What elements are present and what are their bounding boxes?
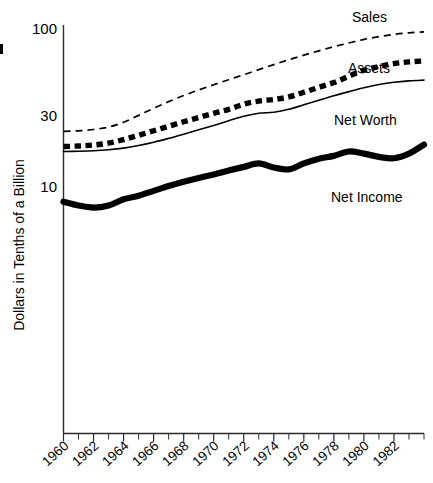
x-tick-label-1962: 1962 — [69, 438, 101, 469]
x-axis-tick-label-group: 1960196219641966196819701972197419761978… — [39, 438, 402, 470]
y-tick-label-30: 30 — [40, 107, 57, 124]
x-tick-label-1982: 1982 — [370, 438, 402, 469]
x-tick-label-1974: 1974 — [249, 438, 282, 470]
x-tick-label-1964: 1964 — [99, 438, 132, 470]
edge-artifact-mark — [0, 44, 3, 54]
y-axis-tick-labels: 100 30 10 — [32, 20, 57, 195]
series-label-sales: Sales — [352, 9, 387, 25]
y-axis-title: Dollars in Tenths of a Billion — [11, 159, 27, 331]
x-tick-label-1980: 1980 — [340, 438, 372, 469]
x-tick-label-1978: 1978 — [310, 438, 342, 469]
series-label-net-income: Net Income — [331, 189, 403, 205]
x-axis-ticks — [64, 434, 425, 442]
y-tick-label-10: 10 — [40, 178, 57, 195]
financial-trends-chart: Dollars in Tenths of a Billion 100 30 10… — [0, 0, 433, 483]
x-tick-label-1968: 1968 — [159, 438, 191, 469]
chart-container: Dollars in Tenths of a Billion 100 30 10… — [0, 0, 433, 483]
y-axis-title-text: Dollars in Tenths of a Billion — [11, 159, 27, 331]
series-label-net-worth: Net Worth — [334, 112, 397, 128]
x-tick-label-1960: 1960 — [39, 438, 71, 469]
x-tick-label-1976: 1976 — [279, 438, 311, 469]
y-tick-label-100: 100 — [32, 20, 57, 37]
x-tick-label-1970: 1970 — [189, 438, 221, 469]
x-tick-label-1966: 1966 — [129, 438, 161, 469]
series-label-assets: Assets — [348, 60, 390, 76]
x-tick-label-1972: 1972 — [219, 438, 251, 469]
